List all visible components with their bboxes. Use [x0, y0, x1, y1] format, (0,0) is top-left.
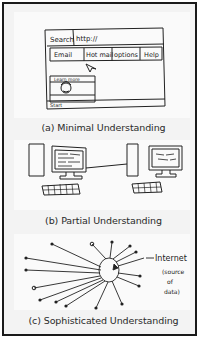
menu-item-help: Help: [144, 51, 159, 59]
browser-sketch: Search http:// Email Hot mail options He…: [14, 12, 190, 118]
caption-b: (b) Partial Understanding: [4, 215, 203, 226]
menu-item-hotmail: Hot mail: [86, 51, 114, 59]
hub-spoke-sketch: Internet (source of data): [14, 234, 190, 310]
menu-item-email: Email: [54, 51, 72, 59]
address-value: http://: [76, 35, 98, 43]
source-annotation-line3: data): [164, 288, 180, 295]
panel-partial-understanding: [14, 140, 190, 210]
two-computers-sketch: [14, 140, 190, 210]
figure-frame: Search http:// Email Hot mail options He…: [2, 2, 197, 336]
caption-a: (a) Minimal Understanding: [4, 122, 203, 133]
embedded-box-title: Learn more: [54, 77, 80, 82]
panel-minimal-understanding: Search http:// Email Hot mail options He…: [14, 12, 190, 118]
internet-label: Internet: [155, 254, 187, 263]
source-annotation-line2: of: [167, 278, 174, 285]
footer-label: Start: [50, 102, 62, 108]
panel-sophisticated-understanding: Internet (source of data): [14, 234, 190, 310]
caption-c: (c) Sophisticated Understanding: [4, 315, 203, 326]
source-annotation-line1: (source: [162, 268, 185, 275]
left-tower: [29, 144, 44, 176]
menu-item-options: options: [114, 51, 139, 59]
address-label: Search: [50, 36, 74, 44]
